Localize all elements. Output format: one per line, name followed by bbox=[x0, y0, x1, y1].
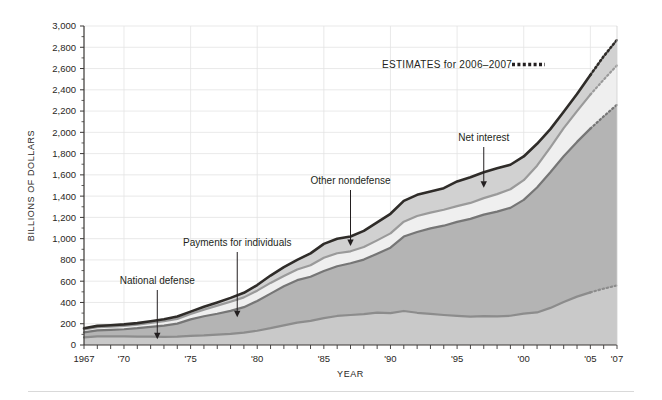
x-tick-label: 1967 bbox=[73, 353, 94, 364]
x-tick-label: '05 bbox=[584, 353, 596, 364]
annotation-label-2: Other nondefense bbox=[310, 175, 390, 186]
y-tick-label: 2,400 bbox=[52, 84, 76, 95]
x-tick-label: '95 bbox=[451, 353, 463, 364]
y-tick-label: 1,600 bbox=[52, 169, 76, 180]
x-tick-label: '90 bbox=[384, 353, 396, 364]
federal-outlays-area-chart: 02004006008001,0001,2001,4001,6001,8002,… bbox=[0, 0, 662, 400]
chart-figure: 02004006008001,0001,2001,4001,6001,8002,… bbox=[0, 0, 662, 400]
x-tick-label: '70 bbox=[118, 353, 130, 364]
y-tick-label: 1,400 bbox=[52, 191, 76, 202]
y-tick-label: 2,800 bbox=[52, 42, 76, 53]
y-tick-label: 2,200 bbox=[52, 105, 76, 116]
x-tick-label: '85 bbox=[318, 353, 330, 364]
y-axis-title: BILLIONS OF DOLLARS bbox=[26, 130, 36, 241]
y-tick-label: 1,000 bbox=[52, 233, 76, 244]
y-tick-label: 800 bbox=[60, 254, 76, 265]
y-tick-label: 2,000 bbox=[52, 127, 76, 138]
legend-estimates-label: ESTIMATES for 2006–2007 bbox=[382, 59, 512, 70]
annotation-label-3: Net interest bbox=[458, 132, 509, 143]
footer-divider bbox=[28, 391, 634, 392]
y-tick-label: 0 bbox=[71, 339, 76, 350]
x-axis-ticks: 1967'70'75'80'85'90'95'00'05'07 bbox=[73, 345, 623, 364]
y-axis-ticks: 02004006008001,0001,2001,4001,6001,8002,… bbox=[52, 20, 84, 350]
annotation-label-1: Payments for individuals bbox=[183, 237, 291, 248]
x-tick-label: '00 bbox=[518, 353, 530, 364]
y-tick-label: 1,200 bbox=[52, 212, 76, 223]
y-tick-label: 1,800 bbox=[52, 148, 76, 159]
y-tick-label: 400 bbox=[60, 297, 76, 308]
y-tick-label: 600 bbox=[60, 276, 76, 287]
x-tick-label: '80 bbox=[251, 353, 263, 364]
y-tick-label: 3,000 bbox=[52, 20, 76, 31]
x-tick-label: '75 bbox=[184, 353, 196, 364]
annotation-label-0: National defense bbox=[120, 275, 195, 286]
y-tick-label: 200 bbox=[60, 318, 76, 329]
y-tick-label: 2,600 bbox=[52, 63, 76, 74]
x-axis-title: YEAR bbox=[337, 369, 364, 379]
x-tick-label: '07 bbox=[611, 353, 623, 364]
